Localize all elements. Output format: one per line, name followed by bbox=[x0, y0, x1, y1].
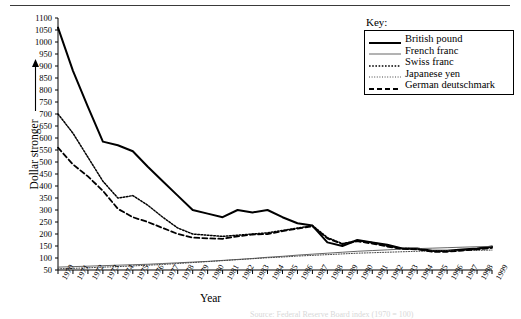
legend-swatch-icon bbox=[368, 45, 402, 55]
y-axis-arrow-icon bbox=[28, 59, 40, 111]
legend-item-japanese-yen[interactable]: Japanese yen bbox=[368, 68, 510, 80]
y-axis-title-text: Dollar stronger bbox=[28, 119, 40, 189]
y-tick-label: 150 bbox=[28, 241, 52, 251]
y-tick-label: 100 bbox=[28, 253, 52, 263]
y-tick-label: 1100 bbox=[28, 13, 52, 23]
figure-caption: Source: Federal Reserve Board index (197… bbox=[250, 310, 515, 319]
legend-swatch-icon bbox=[368, 80, 402, 90]
x-axis-title: Year bbox=[200, 292, 221, 304]
y-axis-title: Dollar stronger bbox=[28, 44, 40, 204]
legend-label: German deutschmark bbox=[405, 79, 495, 90]
series-line-german-deutschmark bbox=[58, 148, 492, 252]
y-tick-label: 200 bbox=[28, 229, 52, 239]
y-tick-label: 1050 bbox=[28, 25, 52, 35]
chart-figure: 5010015020025030035040045050055060065070… bbox=[0, 0, 521, 319]
legend-item-german-deutschmark[interactable]: German deutschmark bbox=[368, 79, 510, 91]
y-tick-label: 50 bbox=[28, 265, 52, 275]
legend-title: Key: bbox=[366, 16, 387, 28]
legend-label: Japanese yen bbox=[405, 68, 460, 79]
legend-label: British pound bbox=[405, 33, 462, 44]
legend-box: British poundFrench francSwiss francJapa… bbox=[364, 30, 514, 95]
y-tick-label: 250 bbox=[28, 217, 52, 227]
legend-label: Swiss franc bbox=[405, 56, 454, 67]
series-line-swiss-franc bbox=[58, 114, 492, 251]
y-tick-label: 300 bbox=[28, 205, 52, 215]
legend-item-british-pound[interactable]: British pound bbox=[368, 33, 510, 45]
legend-swatch-icon bbox=[368, 34, 402, 44]
legend-item-french-franc[interactable]: French franc bbox=[368, 45, 510, 57]
legend-swatch-icon bbox=[368, 57, 402, 67]
legend-swatch-icon bbox=[368, 68, 402, 78]
legend-label: French franc bbox=[405, 45, 458, 56]
legend-item-swiss-franc[interactable]: Swiss franc bbox=[368, 56, 510, 68]
